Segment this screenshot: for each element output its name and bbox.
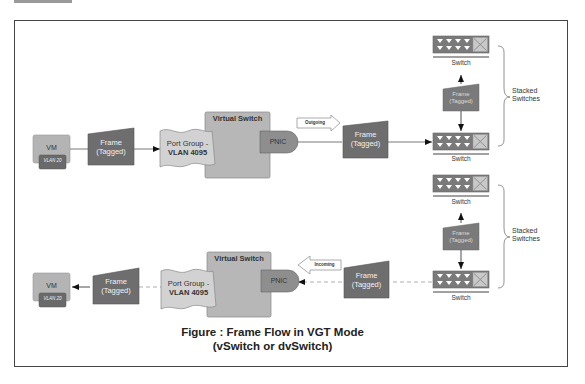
vm-vlan-label: VLAN 20 [39,158,66,163]
vm-vlan-label: VLAN 20 [39,296,66,301]
vm-label: VM [33,144,70,152]
switch-label: Switch [433,198,489,205]
brace [498,185,510,288]
frame-label: Frame(Tagged) [344,272,389,289]
incoming-label: Incoming [308,262,341,267]
vswitch-title: Virtual Switch [207,255,271,264]
switch-label: Switch [433,294,489,301]
outgoing-label: Outgoing [297,120,333,125]
switch-label: Switch [433,155,489,162]
frame-label: Frame(Tagged) [443,230,479,244]
frame-label: Frame(Tagged) [343,131,388,148]
stacked-switches-label: StackedSwitches [512,227,562,243]
figure-caption: Figure : Frame Flow in VGT Mode (vSwitch… [0,325,565,354]
pnic-label: PNIC [260,138,296,146]
brace [498,46,510,146]
frame-label: Frame(Tagged) [93,278,139,295]
port-group-label: Port Group -VLAN 4095 [160,140,215,157]
frame-label: Frame(Tagged) [443,91,479,105]
caption-line-2: (vSwitch or dvSwitch) [213,340,333,352]
pnic-label: PNIC [261,277,297,285]
stacked-switches-label: StackedSwitches [512,87,562,103]
vm-label: VM [33,282,70,290]
switch-label: Switch [433,59,489,66]
port-group-label: Port Group -VLAN 4095 [161,280,216,297]
frame-label: Frame(Tagged) [88,139,134,156]
caption-line-1: Figure : Frame Flow in VGT Mode [181,326,364,338]
vswitch-title: Virtual Switch [205,115,270,124]
